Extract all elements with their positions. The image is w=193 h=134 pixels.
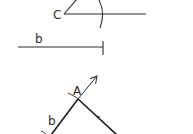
- geometry-diagram: C b A b: [0, 0, 193, 134]
- ray-diagonal: [64, 0, 77, 14]
- arc-mark-bottom-left: [41, 131, 46, 134]
- angle-c-figure: C: [53, 0, 146, 28]
- vertex-label-c: C: [53, 8, 61, 22]
- side-label-b: b: [48, 114, 56, 128]
- segment-label-b: b: [35, 32, 43, 46]
- segment-b: b: [18, 32, 103, 55]
- vertex-a-figure: A b: [41, 76, 117, 134]
- vertex-label-a: A: [73, 84, 82, 98]
